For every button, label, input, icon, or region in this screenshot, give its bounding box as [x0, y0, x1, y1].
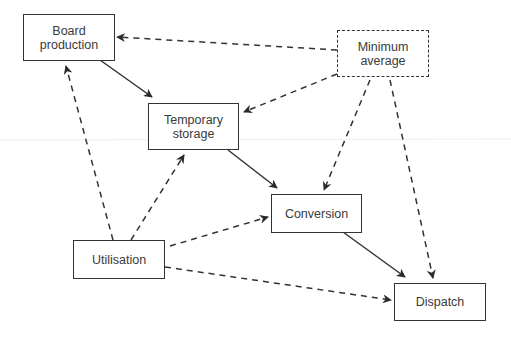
node-temporary-storage: Temporary storage [148, 103, 239, 150]
node-label: Utilisation [92, 253, 146, 267]
edge-utilisation-to-conversion [170, 217, 268, 246]
scan-artifact-line [0, 139, 511, 140]
edge-minimum-average-to-dispatch [390, 80, 433, 278]
node-minimum-average: Minimum average [337, 30, 429, 77]
edge-temporary-storage-to-conversion [228, 150, 277, 188]
node-dispatch: Dispatch [394, 283, 486, 321]
node-label: Dispatch [416, 295, 465, 309]
edge-minimum-average-to-conversion [324, 80, 370, 190]
node-label: Conversion [285, 207, 348, 221]
edge-utilisation-to-dispatch [165, 267, 391, 300]
edge-utilisation-to-temporary-storage [131, 155, 184, 240]
edge-minimum-average-to-temporary-storage [244, 74, 337, 112]
node-label: Board production [40, 24, 98, 52]
edge-utilisation-to-board-production [66, 66, 113, 240]
diagram-canvas: Board production Temporary storage Minim… [0, 0, 511, 337]
node-label: Temporary storage [164, 113, 223, 141]
edge-conversion-to-dispatch [343, 232, 405, 277]
node-board-production: Board production [23, 14, 115, 61]
edge-minimum-average-to-board-production [117, 37, 337, 50]
node-conversion: Conversion [271, 194, 362, 233]
edge-board-production-to-temporary-storage [100, 60, 152, 97]
node-utilisation: Utilisation [73, 240, 165, 279]
node-label: Minimum average [358, 40, 409, 68]
